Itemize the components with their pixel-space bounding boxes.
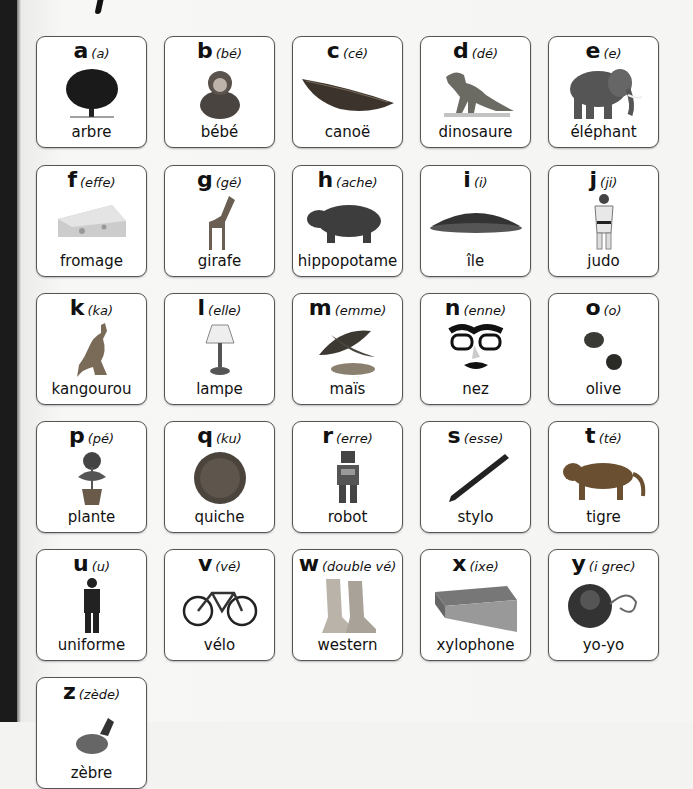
card-pronunciation: (o) [604, 303, 622, 318]
card-letter: r [322, 423, 333, 448]
card-header: q(ku) [165, 425, 274, 447]
card-header: s(esse) [421, 425, 530, 447]
alphabet-card-p: p(pé) plante [36, 421, 147, 533]
card-word: canoë [293, 123, 402, 141]
tiger-icon [549, 452, 658, 504]
card-pronunciation: (ji) [600, 175, 617, 190]
card-pronunciation: (effe) [80, 175, 116, 190]
card-word: kangourou [37, 380, 146, 398]
cheese-icon [37, 196, 146, 248]
card-letter: a [74, 38, 89, 63]
card-header: m(emme) [293, 297, 402, 319]
card-header: n(enne) [421, 297, 530, 319]
card-letter: w [299, 551, 319, 576]
card-letter: h [317, 167, 333, 192]
card-letter: e [585, 38, 600, 63]
card-header: v(vé) [165, 553, 274, 575]
robot-icon [293, 452, 402, 504]
card-pronunciation: (bé) [216, 46, 242, 61]
card-letter: z [63, 679, 76, 704]
card-letter: d [453, 38, 469, 63]
card-word: arbre [37, 123, 146, 141]
card-pronunciation: (enne) [464, 303, 507, 318]
card-pronunciation: (gé) [216, 175, 242, 190]
card-pronunciation: (ixe) [469, 559, 498, 574]
card-letter: o [585, 295, 600, 320]
alphabet-card-b: b(bé) bébé [164, 36, 275, 148]
alphabet-card-o: o(o) olive [548, 293, 659, 405]
card-word: xylophone [421, 636, 530, 654]
card-header: t(té) [549, 425, 658, 447]
card-letter: y [572, 551, 586, 576]
plant-icon [37, 452, 146, 504]
alphabet-card-w: w(double vé) western [292, 549, 403, 661]
card-pronunciation: (a) [91, 46, 109, 61]
boots-icon [293, 580, 402, 632]
card-word: olive [549, 380, 658, 398]
card-header: z(zède) [37, 681, 146, 703]
card-letter: s [448, 423, 461, 448]
card-pronunciation: (i grec) [589, 559, 636, 574]
card-letter: v [198, 551, 212, 576]
card-letter: n [445, 295, 461, 320]
card-word: yo-yo [549, 636, 658, 654]
hippo-icon [293, 196, 402, 248]
card-letter: k [70, 295, 85, 320]
card-pronunciation: (zède) [79, 687, 120, 702]
alphabet-card-n: n(enne) nez [420, 293, 531, 405]
card-letter: t [585, 423, 596, 448]
card-word: vélo [165, 636, 274, 654]
card-header: g(gé) [165, 169, 274, 191]
alphabet-card-i: i(i) île [420, 165, 531, 277]
card-header: j(ji) [549, 169, 658, 191]
card-header: u(u) [37, 553, 146, 575]
baby-icon [165, 67, 274, 119]
card-header: k(ka) [37, 297, 146, 319]
card-letter: c [327, 38, 340, 63]
alphabet-card-y: y(i grec) yo-yo [548, 549, 659, 661]
zebra-icon [37, 708, 146, 760]
lamp-icon [165, 324, 274, 376]
card-pronunciation: (erre) [336, 431, 373, 446]
card-pronunciation: (double vé) [322, 559, 396, 574]
alphabet-card-g: g(gé) girafe [164, 165, 275, 277]
alphabet-card-k: k(ka) kangourou [36, 293, 147, 405]
card-pronunciation: (pé) [88, 431, 114, 446]
card-word: western [293, 636, 402, 654]
card-header: i(i) [421, 169, 530, 191]
alphabet-card-m: m(emme) maïs [292, 293, 403, 405]
card-header: l(elle) [165, 297, 274, 319]
olive-icon [549, 324, 658, 376]
kangaroo-icon [37, 324, 146, 376]
card-header: b(bé) [165, 40, 274, 62]
judo-icon [549, 196, 658, 248]
card-header: h(ache) [293, 169, 402, 191]
card-word: fromage [37, 252, 146, 270]
card-header: o(o) [549, 297, 658, 319]
card-letter: u [73, 551, 89, 576]
card-pronunciation: (emme) [335, 303, 386, 318]
canoe-icon [293, 67, 402, 119]
card-word: dinosaure [421, 123, 530, 141]
alphabet-card-q: q(ku) quiche [164, 421, 275, 533]
card-pronunciation: (ka) [88, 303, 114, 318]
alphabet-card-r: r(erre) robot [292, 421, 403, 533]
island-icon [421, 196, 530, 248]
card-word: plante [37, 508, 146, 526]
card-letter: q [197, 423, 213, 448]
uniform-icon [37, 580, 146, 632]
card-word: quiche [165, 508, 274, 526]
alphabet-card-c: c(cé) canoë [292, 36, 403, 148]
card-letter: x [452, 551, 466, 576]
card-pronunciation: (té) [599, 431, 622, 446]
card-word: stylo [421, 508, 530, 526]
card-word: girafe [165, 252, 274, 270]
card-pronunciation: (esse) [464, 431, 504, 446]
card-letter: j [590, 167, 598, 192]
card-pronunciation: (u) [92, 559, 110, 574]
nose-glasses-icon [421, 324, 530, 376]
card-word: hippopotame [293, 252, 402, 270]
card-header: w(double vé) [293, 553, 402, 575]
card-letter: f [67, 167, 77, 192]
giraffe-icon [165, 196, 274, 248]
